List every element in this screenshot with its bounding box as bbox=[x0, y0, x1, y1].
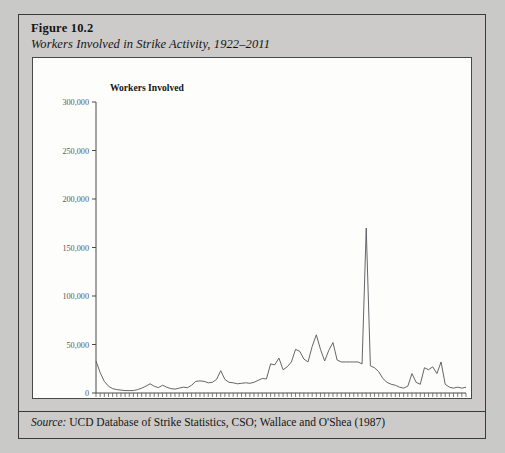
y-axis-tick-label: 0 bbox=[85, 389, 89, 398]
y-axis-tick-label: 250,000 bbox=[62, 147, 89, 156]
chart-title: Workers Involved bbox=[110, 82, 184, 93]
strike-activity-line-chart: Workers Involved050,000100,000150,000200… bbox=[33, 58, 471, 398]
y-axis-tick-label: 300,000 bbox=[62, 98, 89, 107]
source-label: Source: bbox=[31, 416, 66, 428]
data-series-line bbox=[96, 228, 466, 390]
y-axis-tick-label: 200,000 bbox=[62, 195, 89, 204]
y-axis-tick-label: 150,000 bbox=[62, 244, 89, 253]
source-note: Source: UCD Database of Strike Statistic… bbox=[31, 416, 385, 428]
chart-panel: Workers Involved050,000100,000150,000200… bbox=[32, 57, 472, 399]
source-text: UCD Database of Strike Statistics, CSO; … bbox=[66, 416, 385, 428]
figure-container: Figure 10.2 Workers Involved in Strike A… bbox=[18, 14, 486, 439]
y-axis-tick-label: 100,000 bbox=[62, 292, 89, 301]
figure-caption: Workers Involved in Strike Activity, 192… bbox=[31, 37, 270, 52]
source-divider bbox=[19, 411, 485, 412]
y-axis-tick-label: 50,000 bbox=[66, 341, 89, 350]
figure-number: Figure 10.2 bbox=[31, 21, 93, 36]
